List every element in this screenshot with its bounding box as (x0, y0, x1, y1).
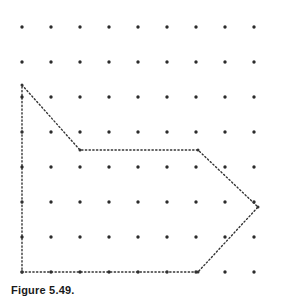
grid-dot (107, 60, 110, 63)
grid-dot (20, 25, 23, 28)
grid-dot (223, 200, 226, 203)
polygon-outline (22, 85, 258, 272)
grid-dot (49, 200, 52, 203)
grid-dot (78, 130, 81, 133)
grid-dot (49, 130, 52, 133)
polygon-vertex (79, 149, 82, 152)
grid-dot (136, 95, 139, 98)
geoboard-figure (0, 0, 281, 290)
grid-dot (107, 235, 110, 238)
grid-dot (165, 60, 168, 63)
grid-dot (78, 95, 81, 98)
polygon-vertex (21, 271, 24, 274)
grid-dot (223, 235, 226, 238)
grid-dot (165, 130, 168, 133)
grid-dot (252, 270, 255, 273)
arrow-polygon (21, 84, 260, 274)
grid-dot (49, 165, 52, 168)
grid-dot (194, 200, 197, 203)
grid-dot (223, 165, 226, 168)
grid-dot (107, 200, 110, 203)
grid-dot (136, 200, 139, 203)
grid-dot (136, 25, 139, 28)
polygon-vertex (21, 84, 24, 87)
polygon-vertex (257, 206, 260, 209)
grid-dot (165, 200, 168, 203)
grid-dot (107, 165, 110, 168)
grid-dot (107, 95, 110, 98)
grid-dot (252, 25, 255, 28)
grid-dot (194, 235, 197, 238)
grid-dot (78, 165, 81, 168)
polygon-vertex (197, 149, 200, 152)
grid-dot (49, 60, 52, 63)
grid-dot (252, 130, 255, 133)
grid-dot (252, 60, 255, 63)
grid-dot (223, 270, 226, 273)
grid-dot (194, 165, 197, 168)
grid-dot (194, 25, 197, 28)
figure-container: Figure 5.49. (0, 0, 281, 307)
grid-dot (136, 60, 139, 63)
grid-dot (136, 235, 139, 238)
polygon-vertex (197, 271, 200, 274)
grid-dot (223, 130, 226, 133)
grid-dot (49, 95, 52, 98)
grid-dot (194, 95, 197, 98)
grid-dot (136, 165, 139, 168)
grid-dot (107, 130, 110, 133)
grid-dot (20, 60, 23, 63)
grid-dot (165, 25, 168, 28)
grid-dot (78, 235, 81, 238)
grid-dot (165, 95, 168, 98)
grid-dot (252, 95, 255, 98)
grid-dot (49, 235, 52, 238)
grid-dot (49, 25, 52, 28)
grid-dot (78, 200, 81, 203)
grid-dot (194, 130, 197, 133)
grid-dot (136, 130, 139, 133)
grid-dot (78, 60, 81, 63)
grid-dot (223, 25, 226, 28)
grid-dot (78, 25, 81, 28)
grid-dot (107, 25, 110, 28)
figure-caption: Figure 5.49. (11, 284, 75, 296)
grid-dot (165, 235, 168, 238)
grid-dot (223, 60, 226, 63)
grid-dot (252, 165, 255, 168)
grid-dot (165, 165, 168, 168)
grid-dot (194, 60, 197, 63)
grid-dot (223, 95, 226, 98)
grid-dot (252, 235, 255, 238)
